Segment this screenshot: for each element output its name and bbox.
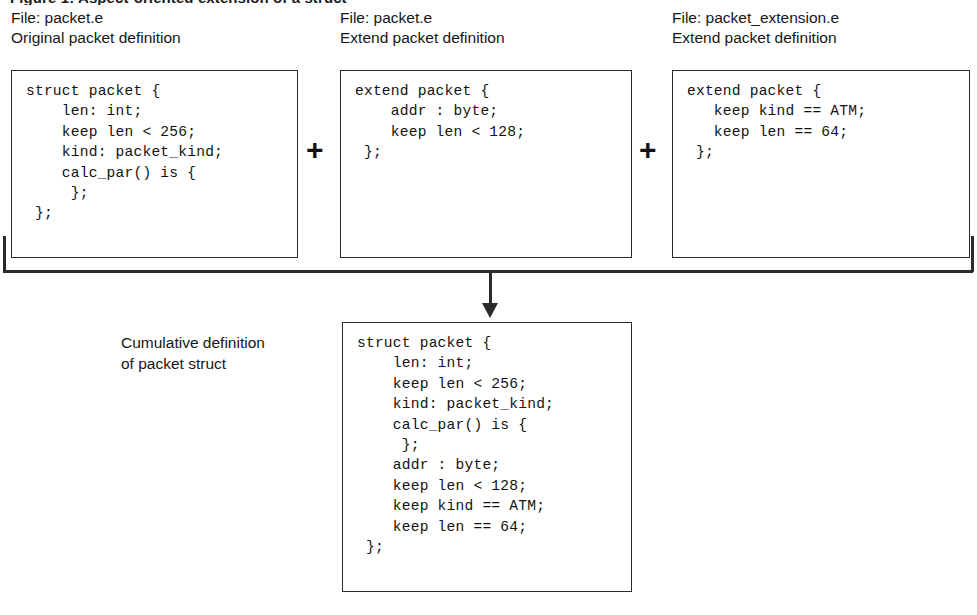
source-file-label-2: File: packet.e: [340, 8, 505, 28]
plus-operator-1: +: [306, 135, 324, 165]
source-desc-label-2: Extend packet definition: [340, 28, 505, 48]
code-text-cumulative-packet: struct packet { len: int; keep len < 256…: [357, 333, 623, 557]
source-caption-2: File: packet.e Extend packet definition: [340, 8, 505, 48]
code-text-extend-packet: extend packet { addr : byte; keep len < …: [355, 81, 623, 163]
cumulative-label-line-1: Cumulative definition: [121, 332, 331, 353]
merge-bracket-left-stub: [3, 236, 6, 272]
cumulative-label-line-2: of packet struct: [121, 353, 331, 374]
code-box-extend-packet: extend packet { addr : byte; keep len < …: [340, 70, 632, 258]
code-box-original-packet: struct packet { len: int; keep len < 256…: [11, 70, 298, 258]
code-box-cumulative-packet: struct packet { len: int; keep len < 256…: [342, 322, 632, 592]
merge-bracket-horizontal: [3, 270, 973, 273]
plus-operator-2: +: [639, 135, 657, 165]
down-arrow-shaft: [489, 272, 492, 304]
merge-bracket-right-stub: [971, 236, 974, 272]
source-caption-1: File: packet.e Original packet definitio…: [11, 8, 181, 48]
source-file-label-1: File: packet.e: [11, 8, 181, 28]
source-file-label-3: File: packet_extension.e: [672, 8, 839, 28]
source-desc-label-3: Extend packet definition: [672, 28, 839, 48]
source-caption-3: File: packet_extension.e Extend packet d…: [672, 8, 839, 48]
source-desc-label-1: Original packet definition: [11, 28, 181, 48]
cumulative-definition-label: Cumulative definition of packet struct: [121, 332, 331, 374]
figure-canvas: Figure 1: Aspect-oriented extension of a…: [0, 0, 977, 615]
code-text-original-packet: struct packet { len: int; keep len < 256…: [26, 81, 289, 224]
code-text-packet-extension: extend packet { keep kind == ATM; keep l…: [687, 81, 961, 163]
figure-caption: Figure 1: Aspect-oriented extension of a…: [10, 0, 710, 5]
code-box-packet-extension: extend packet { keep kind == ATM; keep l…: [672, 70, 970, 258]
down-arrow-icon: [482, 303, 498, 318]
